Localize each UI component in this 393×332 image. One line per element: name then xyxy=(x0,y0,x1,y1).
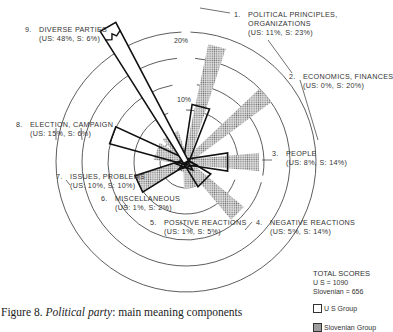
category-label-1: 1.POLITICAL PRINCIPLES, ORGANIZATIONS (U… xyxy=(234,10,338,37)
total-scores: TOTAL SCORES U S = 1090 Slovenian = 656 xyxy=(313,269,370,296)
category-label-4: 4.NEGATIVE REACTIONS (US: 5%, S: 14%) xyxy=(256,218,355,236)
us-swatch-icon xyxy=(313,304,322,313)
totals-title: TOTAL SCORES xyxy=(313,269,370,278)
legend-slovenian: Slovenian Group xyxy=(313,323,376,332)
category-label-3: 3.PEOPLE (US: 8%, S: 14%) xyxy=(272,149,347,167)
category-label-2: 2.ECONOMICS, FINANCES (US: 0%, S: 20%) xyxy=(289,72,393,90)
tick-20-percent: 20% xyxy=(173,37,189,44)
category-label-7: 7.ISSUES, PROBLEMS (US: 10%, S: 10%) xyxy=(56,172,145,190)
category-label-8: 8.ELECTION, CAMPAIGN (US: 15%, S: 6%) xyxy=(16,120,113,138)
category-label-5: 5.POSITIVE REACTIONS (US: 1%, S: 5%) xyxy=(150,218,246,236)
totals-slovenian: Slovenian = 656 xyxy=(313,287,370,296)
category-label-9: 9.DIVERSE PARTIES (US: 48%, S: 6%) xyxy=(25,25,107,43)
legend-us: U S Group xyxy=(313,304,357,313)
figure-caption: Figure 8. Political party: main meaning … xyxy=(1,306,242,318)
totals-us: U S = 1090 xyxy=(313,278,370,287)
slovenian-swatch-icon xyxy=(313,323,322,332)
category-label-6: 6.MISCELLANEOUS (US: 1%, S: 2%) xyxy=(101,194,180,212)
tick-10-percent: 10% xyxy=(176,96,192,103)
